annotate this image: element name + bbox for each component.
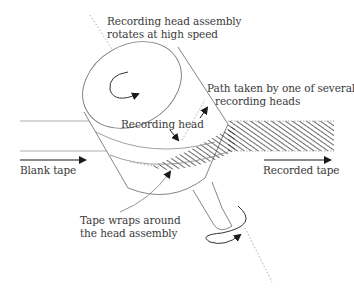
recording-head-label: Recording head [121,118,204,130]
recorded-tape-strip [228,121,334,151]
rotation-axis-bottom [245,228,272,282]
wraps-label-line2: the head assembly [80,227,175,239]
recorded-tape-label: Recorded tape [263,164,339,176]
drive-shaft [193,182,232,230]
assembly-label-line2: rotates at high speed [107,28,218,40]
path-label-line2: recording heads [215,95,300,107]
diagram-drawing [0,0,354,289]
wraps-label-line1: Tape wraps around [80,214,175,226]
path-label-line1: Path taken by one of several [207,82,354,94]
helical-scan-diagram: Recording head assembly rotates at high … [0,0,354,289]
assembly-label-line1: Recording head assembly [107,15,241,27]
blank-tape-label: Blank tape [20,164,76,176]
